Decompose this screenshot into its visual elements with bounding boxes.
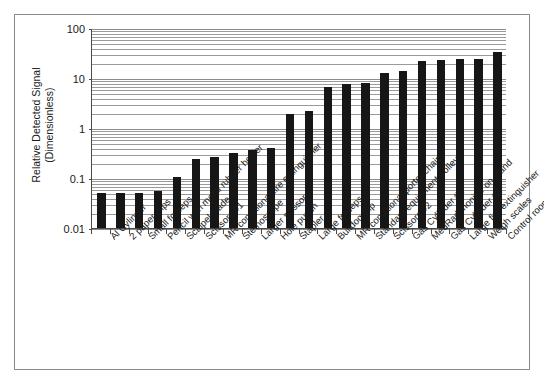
y-axis-tick-label: 10 [73,73,85,85]
x-axis-tick-label: MedRad monitor on stand [429,234,437,242]
x-axis-tick-label: Small forceps [146,234,154,242]
x-axis-tick-label: Larger scissors [259,234,267,242]
bar [97,193,105,228]
x-axis-tick-label: 2 paper clips [127,234,135,242]
x-axis-tick-label: Weigh scales [486,234,494,242]
x-axis-tick-label: Pencil with metal rubber holder [165,234,173,242]
x-axis-tick-label: Scissors #2 [391,234,399,242]
x-axis-tick-label: Gas Cylinder #1 [410,234,418,242]
x-axis-tick-label: MR conditional porter chair [354,234,362,242]
x-axis-tick-label: Hole punch [278,234,286,242]
bar [324,87,332,228]
x-axis-tick-label: Standard equipment trolley [373,234,381,242]
y-axis-tick-labels: 0.010.1110100 [35,29,85,229]
x-axis-tick-label: Scalpel blade [184,234,192,242]
x-axis-tick-label: Scissors #1 [203,234,211,242]
x-axis-tick-label: Large forceps [316,234,324,242]
x-axis-tick-label: Al Cylinder [108,234,116,242]
y-axis-tick-label: 0.01 [64,223,85,235]
x-axis-tick-label: Control room chair [505,234,513,242]
x-axis-tick-label: Stethoscope [240,234,248,242]
x-axis-tick-labels: Al Cylinder2 paper clipsSmall forcepsPen… [91,234,521,364]
y-axis-tick-label: 1 [79,123,85,135]
y-axis-tick-label: 100 [67,23,85,35]
x-axis-tick-label: Gas Cylinder #2 [448,234,456,242]
x-axis-tick-label: Bulldog clip [335,234,343,242]
x-axis-tick-label: MR conditional fire extinguisher [222,234,230,242]
x-axis-tick-label: Large fire extinguisher [467,234,475,242]
y-axis-tick-label: 0.1 [70,173,85,185]
chart-figure: Relative Detected Signal (Dimensionless)… [14,14,530,370]
x-axis-tick-label: Stapler [297,234,305,242]
